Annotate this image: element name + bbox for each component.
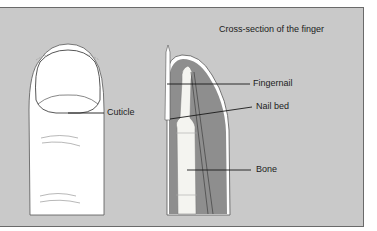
diagram-title: Cross-section of the finger bbox=[219, 24, 324, 34]
label-nail-bed: Nail bed bbox=[256, 101, 289, 111]
label-fingernail: Fingernail bbox=[253, 78, 293, 88]
label-cuticle: Cuticle bbox=[107, 107, 135, 117]
finger-cross-section bbox=[165, 45, 252, 215]
finger-exterior bbox=[29, 44, 104, 215]
label-bone: Bone bbox=[256, 164, 277, 174]
finger-illustration bbox=[0, 0, 377, 231]
